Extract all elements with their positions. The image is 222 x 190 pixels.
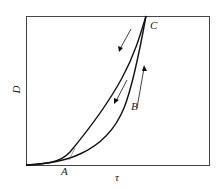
point-b-label: B — [131, 101, 138, 112]
point-c-label: C — [150, 20, 157, 31]
arrow-down-left-upper — [118, 29, 131, 52]
point-a-label: A — [61, 166, 68, 177]
y-axis-label: D — [11, 86, 22, 94]
unloading-curve — [26, 16, 146, 165]
plot-frame — [27, 17, 210, 166]
x-axis-label: τ — [115, 172, 119, 183]
arrow-up-near-b — [137, 65, 147, 108]
arrow-down-left-middle — [114, 80, 127, 104]
hysteresis-chart — [0, 0, 222, 190]
loading-curve — [26, 16, 146, 165]
